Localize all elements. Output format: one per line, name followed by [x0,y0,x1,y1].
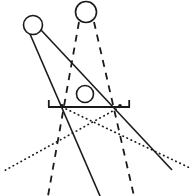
dashed-ray-group [48,22,134,196]
ray-left-circle-to-bottom [30,34,100,196]
upper-right-circle [76,2,97,23]
left-vertex [60,104,64,108]
upper-left-circle [24,16,43,35]
ray-diagram-svg [0,0,192,196]
dotted-ray-left-vertex-outward [2,107,120,172]
ray-left-circle-to-right-exit [41,30,172,170]
dotted-ray-right-vertex-outward [62,107,190,168]
solid-ray-group [30,30,172,196]
right-vertex [118,104,122,108]
dashed-ray-left [48,22,79,196]
dotted-ray-group [2,107,190,172]
figure-container [0,0,192,196]
center-circle [77,86,94,103]
